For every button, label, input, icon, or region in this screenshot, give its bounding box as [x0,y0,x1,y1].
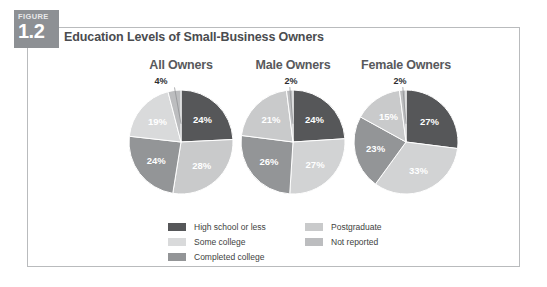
slice-value-label: 33% [409,165,429,176]
pie-graphic: 27%33%23%15% [331,87,481,199]
figure-container: FIGURE 1.2 Education Levels of Small-Bus… [0,0,547,287]
figure-number: 1.2 [18,20,59,42]
legend-label: Not reported [331,237,378,247]
charts-row: All Owners 4% 24%28%24%19% Male Owners 2… [28,58,519,216]
slice-value-label: 24% [147,155,167,166]
legend-label: Postgraduate [331,222,382,232]
pie-callout-label: 2% [325,75,475,87]
slice-value-label: 19% [148,116,168,127]
legend-item: High school or less [168,219,266,234]
legend-item: Not reported [305,234,382,249]
pie-svg: 27%33%23%15% [348,87,464,197]
legend-swatch-not-reported [305,238,323,246]
legend: High school or less Some college Complet… [168,219,468,265]
legend-swatch-some-college [168,238,186,246]
legend-swatch-postgraduate [305,223,323,231]
legend-item: Some college [168,234,266,249]
legend-label: Completed college [194,252,264,262]
slice-value-label: 21% [261,114,281,125]
slice-value-label: 28% [192,160,212,171]
pie-chart-female-owners: Female Owners 2% 27%33%23%15% [331,58,481,199]
legend-column-left: High school or less Some college Complet… [168,219,266,264]
pie-callout-label: 4% [86,75,236,87]
legend-item: Postgraduate [305,219,382,234]
slice-value-label: 24% [193,114,213,125]
legend-column-right: Postgraduate Not reported [305,219,382,249]
slice-value-label: 23% [366,143,386,154]
slice-value-label: 15% [379,111,399,122]
legend-swatch-completed-college [168,253,186,261]
legend-item: Completed college [168,249,266,264]
slice-value-label: 24% [305,114,325,125]
figure-heading: Education Levels of Small-Business Owner… [64,30,324,44]
figure-number-tab: FIGURE 1.2 [14,10,59,48]
legend-swatch-high-school-or-less [168,223,186,231]
slice-value-label: 26% [259,156,279,167]
slice-value-label: 27% [420,116,440,127]
slice-value-label: 27% [306,159,326,170]
legend-label: High school or less [194,222,266,232]
legend-label: Some college [194,237,246,247]
pie-title: Female Owners [331,58,481,73]
